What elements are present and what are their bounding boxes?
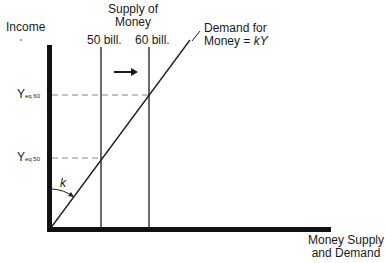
demand-label-prefix: Money = bbox=[204, 34, 254, 48]
angle-k-label: k bbox=[60, 177, 66, 190]
demand-label: Demand for Money = kY bbox=[204, 22, 268, 48]
demand-label-var: kY bbox=[254, 34, 268, 48]
eq60-sub: eq 60 bbox=[25, 93, 40, 99]
x-axis-label: Money Supply and Demand bbox=[306, 234, 386, 260]
x-axis-label-line2: and Demand bbox=[306, 247, 386, 260]
eq50-main: Y bbox=[17, 150, 25, 164]
eq50-sub: eq 50 bbox=[25, 156, 40, 162]
eq60-label: Yeq 60 bbox=[17, 88, 40, 103]
demand-label-line2: Money = kY bbox=[204, 35, 268, 48]
demand-leader bbox=[0, 0, 386, 263]
eq50-label: Yeq 50 bbox=[17, 151, 40, 166]
eq60-main: Y bbox=[17, 87, 25, 101]
